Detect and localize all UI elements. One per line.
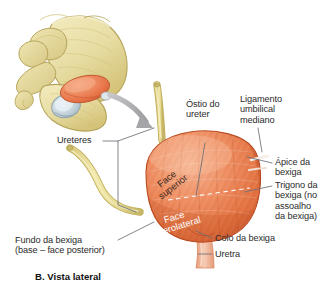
label-trigono-da-bexiga: Trigono da bexiga (no assoalho da bexiga… (275, 180, 318, 222)
upper-ureter-tube (154, 84, 162, 141)
anatomy-figure: Ureteres Óstio do ureter Ligamento umbil… (0, 0, 327, 292)
label-ligamento-umbilical-mediano: Ligamento umbilical mediano (240, 94, 282, 125)
label-colo-da-bexiga: Colo da bexiga (215, 233, 275, 243)
label-uretra: Uretra (215, 249, 240, 259)
figure-caption: B. Vista lateral (35, 271, 101, 282)
label-apice-da-bexiga: Ápice da bexiga (275, 157, 310, 178)
label-ureteres: Ureteres (57, 135, 91, 145)
lower-ureter-tube (67, 146, 140, 212)
label-ostio-do-ureter: Óstio do ureter (186, 99, 219, 120)
pelvic-bone-inset (15, 15, 127, 131)
label-fundo-da-bexiga: Fundo da bexiga (base – face posterior) (15, 235, 105, 256)
orientation-arrow (110, 95, 153, 128)
